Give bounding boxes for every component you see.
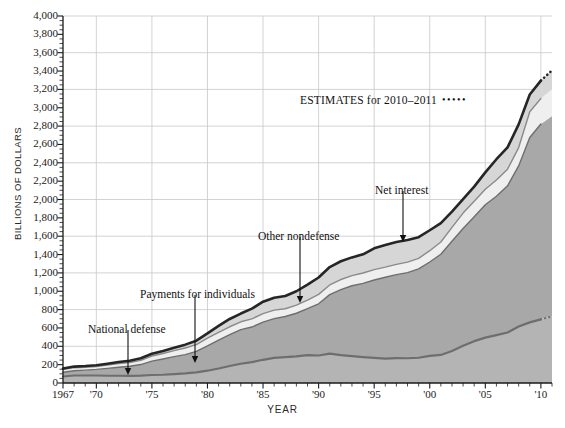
y-axis-tick-label: 2,600 bbox=[12, 138, 58, 149]
x-axis-tick-label: '80 bbox=[182, 388, 232, 400]
y-axis-tick-label: 2,200 bbox=[12, 175, 58, 186]
y-axis-tick-label: 3,400 bbox=[12, 65, 58, 76]
y-axis-tick-label: 3,200 bbox=[12, 83, 58, 94]
x-axis-tick-label: '85 bbox=[238, 388, 288, 400]
annotation-payments-for-individuals: Payments for individuals bbox=[140, 288, 255, 300]
y-axis-tick-label: 200 bbox=[12, 359, 58, 370]
x-axis-tick-label: '75 bbox=[127, 388, 177, 400]
estimates-note-text: ESTIMATES for 2010–2011 bbox=[300, 94, 437, 106]
y-axis-tick-label: 800 bbox=[12, 304, 58, 315]
y-axis-tick-labels: 02004006008001,0001,2001,4001,6001,8002,… bbox=[12, 0, 58, 428]
plot-area bbox=[0, 0, 565, 428]
x-axis-tick-label: '70 bbox=[71, 388, 121, 400]
y-axis-tick-label: 600 bbox=[12, 322, 58, 333]
y-axis-tick-label: 1,000 bbox=[12, 285, 58, 296]
y-axis-tick-label: 3,000 bbox=[12, 102, 58, 113]
federal-outlays-area-chart: BILLIONS OF DOLLARS YEAR 02004006008001,… bbox=[0, 0, 565, 428]
estimates-note: ESTIMATES for 2010–2011••••• bbox=[300, 94, 467, 106]
y-axis-tick-label: 3,600 bbox=[12, 47, 58, 58]
x-axis-tick-label: '05 bbox=[460, 388, 510, 400]
x-axis-title: YEAR bbox=[0, 404, 565, 415]
annotation-other-nondefense: Other nondefense bbox=[258, 230, 339, 242]
y-axis-tick-label: 0 bbox=[12, 377, 58, 388]
y-axis-tick-label: 2,400 bbox=[12, 157, 58, 168]
annotation-net-interest: Net interest bbox=[375, 184, 428, 196]
y-axis-tick-label: 1,200 bbox=[12, 267, 58, 278]
y-axis-tick-label: 2,000 bbox=[12, 194, 58, 205]
x-axis-tick-label: '00 bbox=[405, 388, 455, 400]
x-axis-tick-label: '95 bbox=[349, 388, 399, 400]
annotation-national-defense: National defense bbox=[88, 323, 166, 335]
x-axis-tick-label: '10 bbox=[516, 388, 565, 400]
y-axis-tick-label: 3,800 bbox=[12, 28, 58, 39]
estimates-dots: ••••• bbox=[442, 94, 467, 105]
x-axis-tick-label: '90 bbox=[294, 388, 344, 400]
y-axis-tick-label: 1,800 bbox=[12, 212, 58, 223]
y-axis-tick-label: 1,400 bbox=[12, 249, 58, 260]
y-axis-tick-label: 400 bbox=[12, 340, 58, 351]
y-axis-tick-label: 4,000 bbox=[12, 10, 58, 21]
y-axis-tick-label: 2,800 bbox=[12, 120, 58, 131]
y-axis-tick-label: 1,600 bbox=[12, 230, 58, 241]
